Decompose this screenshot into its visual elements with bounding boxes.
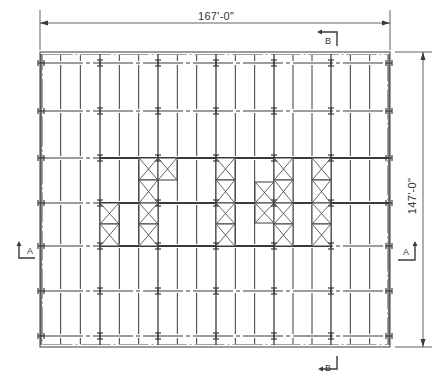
width-dimension-label: 167'-0" bbox=[198, 11, 234, 22]
framing-plan-drawing bbox=[0, 0, 444, 391]
column-markers bbox=[38, 60, 392, 339]
arrowhead-icon bbox=[421, 339, 426, 347]
section-b-top-label: B bbox=[325, 36, 331, 47]
section-b-bottom-label: B bbox=[325, 363, 331, 374]
section-arrow-icon bbox=[318, 367, 323, 372]
section-arrow-icon bbox=[413, 241, 418, 246]
section-arrow-icon bbox=[317, 30, 322, 35]
section-a-right-label: A bbox=[403, 247, 409, 258]
arrowhead-icon bbox=[382, 21, 390, 26]
arrowhead-icon bbox=[40, 21, 48, 26]
section-a-left-label: A bbox=[27, 246, 33, 257]
height-dimension-label: 147'-0" bbox=[407, 178, 418, 214]
section-arrow-icon bbox=[17, 241, 22, 246]
arrowhead-icon bbox=[421, 52, 426, 60]
